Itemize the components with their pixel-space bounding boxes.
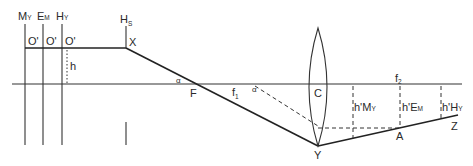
label-o-prime-3: O': [65, 35, 76, 47]
label-c: C: [314, 87, 322, 99]
label-em: EM: [37, 10, 50, 22]
label-alpha-1: α: [176, 76, 181, 85]
label-o-prime-1: O': [28, 35, 39, 47]
label-my: MY: [18, 10, 32, 22]
label-f1: f1: [232, 86, 239, 100]
label-f: F: [190, 87, 197, 99]
label-a: A: [396, 130, 404, 142]
label-hs: HS: [120, 13, 133, 27]
label-f2: f2: [395, 72, 402, 85]
label-z: Z: [451, 120, 458, 132]
label-alpha-2: α: [252, 85, 257, 94]
label-hhy: h'HY: [442, 101, 463, 113]
label-o-prime-2: O': [46, 35, 57, 47]
label-x: X: [129, 36, 137, 48]
label-h: h: [70, 60, 76, 72]
label-hmy: h'MY: [354, 101, 376, 113]
label-y: Y: [314, 149, 322, 161]
optical-diagram: MY EM HY HS O' O' O' h X α α F f1 C f2 h…: [0, 0, 473, 166]
label-hem: h'EM: [402, 101, 423, 113]
ray-y-to-z: [318, 115, 458, 146]
label-hy: HY: [56, 10, 69, 22]
ray-x-to-y: [126, 48, 318, 146]
